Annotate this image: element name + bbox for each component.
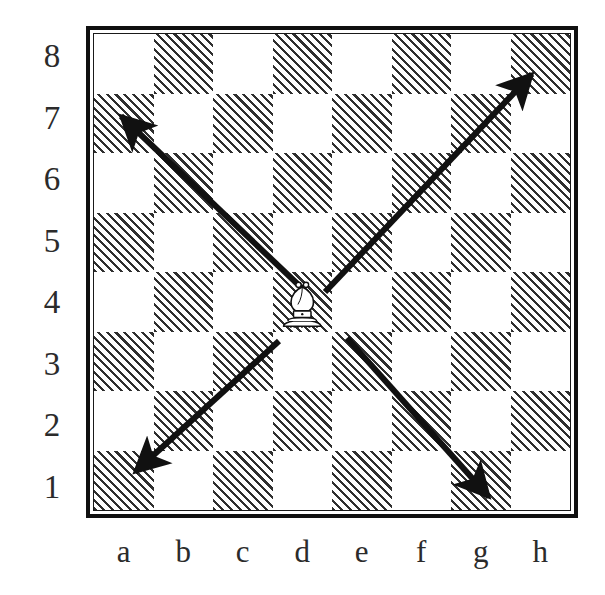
piece-layer	[0, 0, 605, 595]
file-label-a: a	[94, 526, 154, 576]
file-label-b: b	[154, 526, 214, 576]
file-label-g: g	[451, 526, 511, 576]
file-label-e: e	[332, 526, 392, 576]
file-label-d: d	[273, 526, 333, 576]
file-label-h: h	[511, 526, 571, 576]
file-labels: a b c d e f g h	[94, 526, 570, 576]
file-label-f: f	[392, 526, 452, 576]
white-bishop-d4[interactable]	[284, 282, 321, 327]
chess-diagram: 8 7 6 5 4 3 2 1 a b c d e f g h	[0, 0, 605, 595]
file-label-c: c	[213, 526, 273, 576]
